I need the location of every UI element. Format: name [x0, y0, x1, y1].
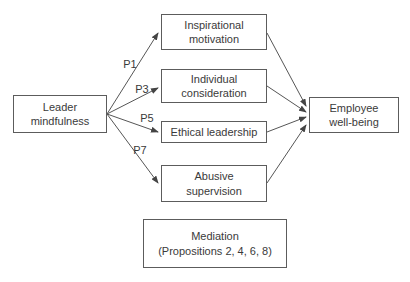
diagram-canvas: Leader mindfulness Inspirational motivat…: [0, 0, 410, 282]
arrow-leader-to-inspirational: [107, 33, 158, 114]
node-inspirational-motivation: Inspirational motivation: [161, 14, 267, 50]
node-employee-wellbeing: Employee well-being: [309, 97, 399, 133]
arrow-abusive-to-employee: [267, 125, 306, 183]
node-leader-mindfulness: Leader mindfulness: [13, 95, 107, 133]
arrow-inspirational-to-employee: [267, 33, 306, 106]
node-ethical-leadership: Ethical leadership: [161, 121, 267, 143]
arrow-individual-to-employee: [267, 86, 306, 112]
node-individual-consideration: Individual consideration: [161, 69, 267, 103]
arrow-ethical-to-employee: [267, 117, 306, 132]
arrow-leader-to-individual: [107, 88, 158, 114]
node-mediation: Mediation (Propositions 2, 4, 6, 8): [143, 219, 287, 268]
path-label-p5: P5: [140, 112, 153, 124]
path-label-p3: P3: [135, 83, 148, 95]
node-abusive-supervision: Abusive supervision: [161, 165, 267, 202]
path-label-p1: P1: [123, 58, 136, 70]
path-label-p7: P7: [133, 144, 146, 156]
